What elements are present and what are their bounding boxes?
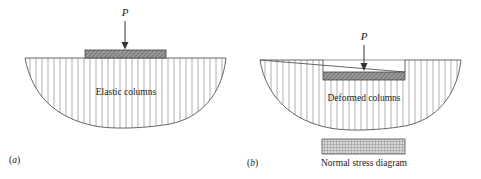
figure-canvas: P Elastic columns (a) P Deformed columns… <box>0 0 481 179</box>
panel-b-load-arrow-icon <box>361 45 368 71</box>
panel-a-caption: (a) <box>9 155 20 165</box>
panel-a-soil <box>25 58 226 140</box>
panel-b-rigid-plate <box>323 72 405 80</box>
panel-b-letter: b <box>250 158 255 168</box>
panel-a-load-label: P <box>122 6 129 18</box>
normal-stress-diagram-label: Normal stress diagram <box>321 158 407 168</box>
panel-b-region-label: Deformed columns <box>327 93 400 103</box>
panel-a-load-arrow-icon <box>122 21 129 50</box>
panel-a-region-label: Elastic columns <box>96 87 156 97</box>
panel-a-rigid-plate <box>85 50 166 58</box>
panel-b-load-label: P <box>361 30 368 42</box>
panel-a-letter: a <box>12 155 17 165</box>
normal-stress-diagram-block <box>322 139 405 154</box>
panel-b-caption: (b) <box>247 158 258 168</box>
diagram-drawing <box>0 0 481 179</box>
